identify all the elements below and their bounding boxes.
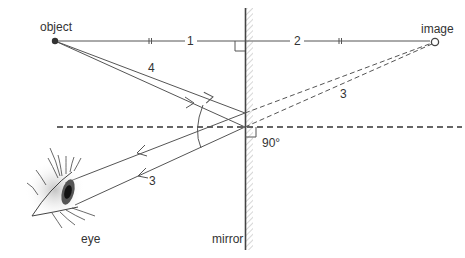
ray-label-4: 4 — [148, 61, 155, 75]
right-angle-marker-top — [235, 41, 245, 51]
arrow-icon — [185, 97, 194, 108]
mirror-hatching — [246, 8, 253, 250]
mirror — [246, 8, 254, 250]
reflected-rays — [65, 105, 245, 205]
ray-label-3-reflected: 3 — [149, 174, 156, 188]
ray-label-3-virtual: 3 — [340, 87, 347, 101]
image-point — [431, 38, 438, 45]
incident-rays — [55, 41, 245, 127]
object-point — [52, 38, 58, 44]
arrow-icon — [138, 168, 148, 178]
mirror-label: mirror — [212, 232, 243, 246]
mirror-reflection-diagram: object image eye mirror 90° 1 2 4 3 3 — [0, 0, 465, 258]
distance-label-1: 1 — [187, 34, 194, 48]
virtual-rays — [245, 43, 432, 127]
object-label: object — [40, 20, 73, 34]
eye-illustration — [25, 148, 95, 228]
image-label: image — [421, 22, 454, 36]
angle-label: 90° — [262, 136, 280, 150]
distance-label-2: 2 — [294, 34, 301, 48]
eye-label: eye — [81, 232, 101, 246]
object-image-axis — [55, 38, 430, 51]
